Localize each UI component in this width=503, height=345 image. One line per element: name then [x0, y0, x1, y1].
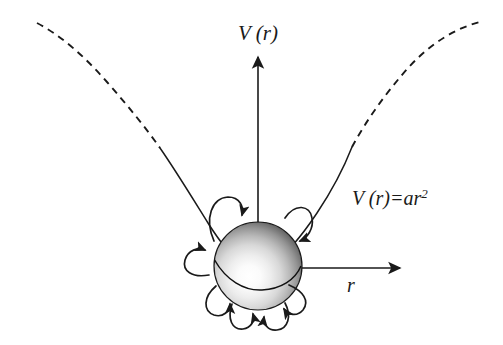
equation-main-text: V (r)=ar — [352, 187, 421, 210]
curve-equation-label: V (r)=ar2 — [352, 186, 428, 210]
figure-canvas: V (r) r V (r)=ar2 — [0, 0, 503, 345]
x-axis-label: r — [347, 274, 355, 296]
potential-well-figure: V (r) r V (r)=ar2 — [0, 0, 503, 345]
equation-exponent: 2 — [421, 186, 428, 201]
potential-curve-right-dashed — [352, 22, 480, 147]
oscillating-sphere-group — [214, 222, 302, 310]
arrow-left-upper — [184, 249, 209, 276]
potential-curve-left-dashed — [37, 23, 160, 148]
y-axis-label: V (r) — [238, 21, 278, 45]
svg-text:V (r)=ar2: V (r)=ar2 — [352, 186, 428, 210]
